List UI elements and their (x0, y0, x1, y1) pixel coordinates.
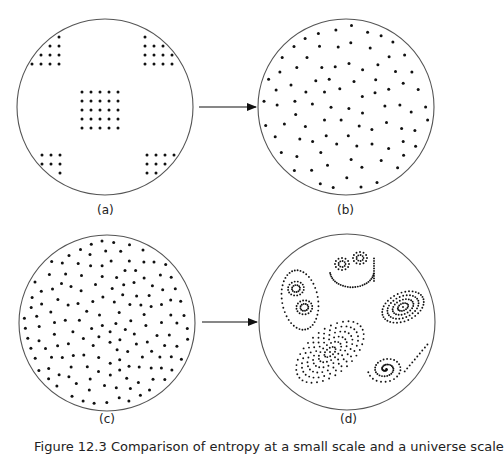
cluster-top-cup (329, 251, 375, 288)
transition-arrows (199, 107, 257, 322)
panel-label-a: (a) (97, 203, 114, 217)
panel-label-b: (b) (337, 203, 354, 217)
panel-label-d: (d) (340, 412, 357, 426)
panel-label-c: (c) (99, 412, 115, 426)
panel-b-uniform-dots (258, 19, 434, 195)
figure-caption: Figure 12.3 Comparison of entropy at a s… (34, 439, 434, 454)
cluster-bottom-right-spiral (367, 344, 428, 383)
boundary-circle (258, 19, 434, 195)
panel-a-ordered-clusters (17, 19, 193, 195)
panel-c-uniform-dots (19, 235, 195, 411)
boundary-circle (259, 234, 435, 410)
panel-d-spiral-clusters (259, 234, 435, 410)
boundary-circle (17, 19, 193, 195)
cluster-right-spiral (381, 290, 424, 323)
boundary-circle (19, 235, 195, 411)
cluster-left-double-loop (281, 269, 320, 330)
